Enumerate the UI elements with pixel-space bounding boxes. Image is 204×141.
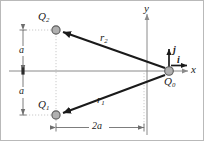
charge-label-q2: Q2 — [38, 11, 49, 24]
vector-label-r2: r2 — [100, 32, 108, 45]
charge-label-q0-base: Q — [164, 75, 172, 87]
vector-label-r2-sub: 2 — [104, 37, 107, 44]
dimension-label-a-lower: a — [19, 86, 24, 96]
coordinate-axes — [9, 14, 188, 135]
physics-figure-canvas: x y j i Q2 Q1 Q0 r2 r1 a a 2a — [0, 0, 204, 141]
y-axis-label: y — [144, 3, 149, 14]
charge-label-q2-base: Q — [38, 10, 46, 22]
vector-label-r1: r1 — [97, 94, 105, 107]
charge-label-q0-sub: 0 — [172, 81, 175, 88]
dimension-label-a-upper: a — [19, 45, 24, 55]
charge-marker-q2 — [52, 26, 60, 34]
position-vectors — [63, 32, 165, 113]
diagram-vector-layer — [1, 1, 204, 141]
charge-label-q0: Q0 — [164, 76, 175, 89]
charge-label-q2-sub: 2 — [46, 16, 49, 23]
charge-markers — [52, 26, 173, 119]
charge-label-q1-sub: 1 — [46, 104, 49, 111]
charge-label-q1: Q1 — [38, 99, 49, 112]
vector-label-r1-sub: 1 — [101, 99, 104, 106]
origin-tick-mark — [21, 67, 24, 74]
charge-marker-q0 — [165, 67, 174, 76]
arrow-r1 — [63, 75, 165, 113]
guide-lines — [23, 27, 144, 128]
charge-label-q1-base: Q — [38, 98, 46, 110]
dimension-label-2a: 2a — [92, 121, 102, 131]
unit-vector-j-label: j — [173, 45, 176, 55]
charge-marker-q1 — [52, 111, 60, 119]
unit-vector-i-label: i — [177, 55, 180, 65]
x-axis-label: x — [191, 64, 196, 75]
arrow-r2 — [63, 32, 165, 68]
